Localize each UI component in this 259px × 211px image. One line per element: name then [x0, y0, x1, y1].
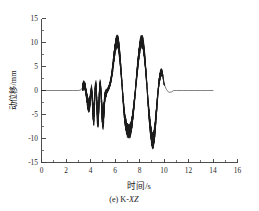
y-tick-label: -5 — [32, 110, 38, 119]
x-tick-label: 16 — [234, 166, 242, 175]
series-oscillation-path-2 — [83, 35, 165, 149]
y-tick-label: -15 — [28, 158, 38, 167]
y-tick-label: 5 — [34, 62, 38, 71]
y-tick-label: 0 — [34, 86, 38, 95]
x-axis-label: 时间/s — [127, 180, 151, 191]
caption-italic-part: XZ — [128, 195, 139, 204]
x-tick-label: 14 — [209, 166, 217, 175]
x-tick-label: 8 — [138, 166, 142, 175]
figure-container: 15 10 5 0 -5 -10 -15 — [0, 0, 259, 211]
x-tick-label: 4 — [89, 166, 93, 175]
x-tick-label: 6 — [113, 166, 117, 175]
x-tick-label: 0 — [40, 166, 44, 175]
y-axis-tick-labels: 15 10 5 0 -5 -10 -15 — [28, 14, 38, 167]
y-tick-label: -10 — [28, 134, 38, 143]
y-tick-label: 15 — [31, 14, 39, 23]
x-tick-label: 10 — [160, 166, 168, 175]
data-series-k-xz — [42, 35, 214, 149]
x-tick-label: 12 — [185, 166, 193, 175]
chart-svg: 15 10 5 0 -5 -10 -15 — [0, 0, 259, 211]
x-axis-tick-labels: 0 2 4 6 8 10 12 14 16 — [40, 166, 242, 175]
caption-prefix: (e) K- — [109, 195, 129, 204]
x-axis-ticks — [42, 159, 238, 163]
y-tick-label: 10 — [31, 38, 39, 47]
figure-caption: (e) K- XZ — [109, 195, 139, 204]
y-axis-label: 动位移/mm — [8, 70, 18, 110]
x-tick-label: 2 — [64, 166, 68, 175]
